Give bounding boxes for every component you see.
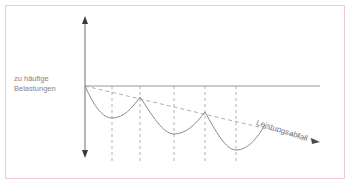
trend-arrow-icon <box>311 138 320 144</box>
load-frequency-label-line1: zu häufige <box>14 74 56 84</box>
axis-arrow-down-icon <box>82 150 88 158</box>
axis-arrow-up-icon <box>82 16 88 24</box>
diagram-page: zu häufige Belastungen Leistungsabfall <box>0 0 350 184</box>
load-frequency-label: zu häufige Belastungen <box>14 74 56 94</box>
load-frequency-label-line2: Belastungen <box>14 84 56 94</box>
